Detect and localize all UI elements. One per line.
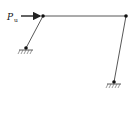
left-column [26, 16, 43, 48]
left-pinned-support-icon [18, 46, 33, 54]
load-label: P u [6, 12, 18, 23]
load-subscript: u [14, 16, 18, 23]
joint-b-icon [124, 14, 128, 18]
right-column [114, 16, 126, 82]
right-pinned-support-icon [106, 80, 121, 88]
load-symbol: P [6, 12, 14, 22]
frame-diagram: P u [0, 0, 135, 115]
joint-a-icon [41, 14, 45, 18]
